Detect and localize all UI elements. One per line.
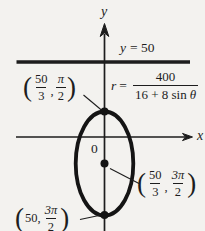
origin-label: 0 (91, 142, 98, 156)
equation-denominator: 16 + 8 sinθ (133, 85, 198, 101)
r-fraction: 50 3 (147, 169, 164, 198)
equation-equals-sign: = (119, 79, 127, 93)
separator: , (51, 77, 54, 98)
theta-fraction: 3π 2 (43, 204, 60, 231)
center-point-label: ( 50 3 , 3π 2 ) (137, 168, 196, 199)
y-axis-label: y (101, 5, 107, 19)
top-vertex-label: ( 50 3 , π 2 ) (23, 72, 76, 103)
r-value: 50, (25, 212, 42, 225)
center-dot (101, 160, 109, 168)
directrix-variable: y (120, 40, 126, 55)
open-paren: ( (23, 73, 32, 101)
theta-fraction: π 2 (56, 73, 66, 102)
equation-numerator: 400 (152, 70, 180, 85)
directrix-value: = 50 (130, 40, 155, 55)
leader-line-top-vertex (84, 95, 103, 111)
close-paren: ) (60, 204, 69, 231)
theta-symbol: θ (190, 87, 196, 102)
separator: , (165, 173, 168, 194)
equation-fraction: 400 16 + 8 sinθ (133, 70, 198, 101)
x-axis-label: x (197, 129, 203, 143)
top-vertex-dot (101, 108, 109, 116)
equation-variable: r (111, 79, 116, 93)
bottom-vertex-dot (101, 211, 109, 219)
open-paren: ( (15, 204, 24, 231)
bottom-vertex-label: ( 50, 3π 2 ) (15, 203, 69, 231)
close-paren: ) (187, 169, 196, 197)
polar-ellipse-figure: y x 0 y= 50 r = 400 16 + 8 sinθ ( 50 3 ,… (0, 0, 205, 231)
r-fraction: 50 3 (33, 73, 50, 102)
leader-line-bottom-vertex (80, 216, 99, 220)
open-paren: ( (137, 169, 146, 197)
close-paren: ) (67, 73, 76, 101)
directrix-label: y= 50 (120, 41, 155, 55)
polar-equation: r = 400 16 + 8 sinθ (111, 70, 198, 101)
theta-fraction: 3π 2 (170, 169, 187, 198)
